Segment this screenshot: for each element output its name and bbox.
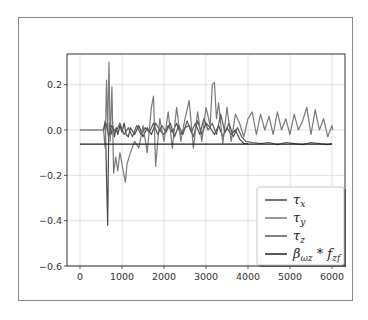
x-tick-label: 6000 xyxy=(320,271,344,282)
x-tick-label: 4000 xyxy=(236,271,260,282)
x-tick-label: 5000 xyxy=(278,271,302,282)
x-tick-label: 1000 xyxy=(110,271,134,282)
y-tick-label: 0.2 xyxy=(47,79,62,90)
y-tick-label: −0.6 xyxy=(39,261,62,272)
x-tick-label: 3000 xyxy=(194,271,218,282)
x-tick-label: 2000 xyxy=(152,271,176,282)
y-tick-label: −0.2 xyxy=(39,170,62,181)
legend: τxτyτzβωz * fzf xyxy=(257,187,346,267)
x-tick-label: 0 xyxy=(77,271,83,282)
line-chart: 01000200030004000500060000.20.0−0.2−0.4−… xyxy=(0,0,368,320)
series-line-2 xyxy=(104,62,333,182)
y-tick-label: 0.0 xyxy=(47,125,62,136)
y-tick-label: −0.4 xyxy=(39,215,62,226)
